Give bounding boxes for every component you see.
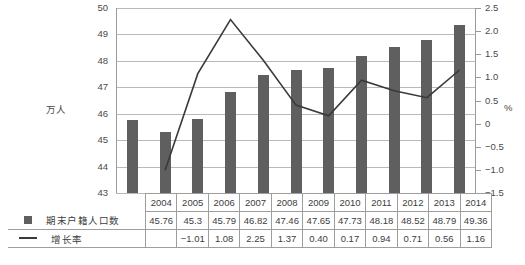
right-tick-mark (476, 170, 481, 171)
right-tick-mark (476, 101, 481, 102)
table-cell: 48.79 (429, 212, 460, 230)
right-tick-mark (476, 54, 481, 55)
table-row: 期末户籍人口数45.7645.345.7946.8247.4647.6547.7… (8, 212, 491, 230)
table-header-year: 2008 (271, 194, 302, 212)
table-header-year: 2009 (303, 194, 334, 212)
right-tick-label: 0.5 (485, 96, 525, 106)
left-tick-label: 47 (68, 82, 108, 92)
right-tick-label: 1.0 (485, 72, 525, 82)
left-tick-label: 48 (68, 56, 108, 66)
line-series (116, 8, 476, 193)
left-tick-label: 46 (68, 109, 108, 119)
data-table: 2004200520062007200820092010201120122013… (8, 193, 492, 248)
table-cell: 48.18 (366, 212, 397, 230)
left-tick-label: 49 (68, 29, 108, 39)
table-header-year: 2010 (334, 194, 365, 212)
figure-caption (0, 258, 525, 265)
table-header-year: 2007 (240, 194, 271, 212)
table-header-year: 2004 (146, 194, 177, 212)
legend-square-marker-icon (24, 216, 32, 224)
table-header-legend-cell (8, 194, 146, 212)
table-cell: 46.82 (240, 212, 271, 230)
legend-cell: 期末户籍人口数 (8, 212, 146, 230)
table-cell: 47.65 (303, 212, 334, 230)
table-header-year: 2005 (177, 194, 208, 212)
legend-cell: 增长率 (8, 230, 146, 248)
table-cell: 1.16 (460, 230, 491, 248)
table-cell: 0.17 (334, 230, 365, 248)
table-cell: 0.94 (366, 230, 397, 248)
right-tick-label: 2.0 (485, 26, 525, 36)
table-cell: 45.3 (177, 212, 208, 230)
table-cell: 2.25 (240, 230, 271, 248)
table-cell: 45.79 (208, 212, 239, 230)
table-cell: 49.36 (460, 212, 491, 230)
table-header-year: 2013 (429, 194, 460, 212)
right-tick-label: 0 (485, 119, 525, 129)
table-cell: 0.40 (303, 230, 334, 248)
table-cell (146, 230, 177, 248)
table-cell: −1.01 (177, 230, 208, 248)
table-header-row: 2004200520062007200820092010201120122013… (8, 194, 491, 212)
right-tick-mark (476, 77, 481, 78)
table-cell: 48.52 (397, 212, 428, 230)
right-tick-mark (476, 31, 481, 32)
legend-label: 增长率 (51, 232, 83, 246)
right-tick-mark (476, 124, 481, 125)
right-tick-label: −1.0 (485, 165, 525, 175)
right-tick-label: 2.5 (485, 3, 525, 13)
table-cell: 1.08 (208, 230, 239, 248)
table-cell: 0.71 (397, 230, 428, 248)
right-tick-label: −0.5 (485, 142, 525, 152)
table-header-year: 2012 (397, 194, 428, 212)
table-row: 增长率−1.011.082.251.370.400.170.940.710.56… (8, 230, 491, 248)
left-axis-title: 万人 (46, 102, 66, 116)
table-cell: 47.46 (271, 212, 302, 230)
table-cell: 45.76 (146, 212, 177, 230)
growth-rate-line (165, 20, 460, 171)
table-cell: 1.37 (271, 230, 302, 248)
table-header-year: 2006 (208, 194, 239, 212)
chart-figure: 万人 % 5049484746454443 2.52.01.51.00.50−0… (0, 0, 525, 265)
table-header-year: 2014 (460, 194, 491, 212)
right-tick-label: 1.5 (485, 49, 525, 59)
table-cell: 0.56 (429, 230, 460, 248)
table-header-year: 2011 (366, 194, 397, 212)
legend-label: 期末户籍人口数 (46, 213, 120, 227)
table-cell: 47.73 (334, 212, 365, 230)
left-tick-label: 50 (68, 3, 108, 13)
plot-area (116, 8, 476, 193)
left-tick-label: 45 (68, 135, 108, 145)
right-tick-mark (476, 147, 481, 148)
legend-line-marker-icon (19, 237, 37, 239)
right-tick-mark (476, 8, 481, 9)
left-tick-label: 44 (68, 162, 108, 172)
